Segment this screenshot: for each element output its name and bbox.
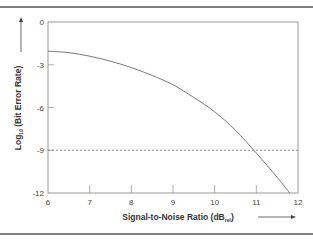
y-axis-title: Log10 (Bit Error Rate) — [13, 66, 24, 151]
x-tick-label: 9 — [171, 198, 176, 207]
y-tick-label: -12 — [32, 189, 44, 198]
y-tick-label: -3 — [37, 61, 45, 70]
x-axis-arrow-icon — [258, 215, 296, 219]
y-tick-label: -6 — [37, 104, 45, 113]
x-tick-label: 10 — [210, 198, 219, 207]
y-tick-label: 0 — [40, 18, 45, 27]
x-tick-label: 8 — [129, 198, 134, 207]
x-axis: 6789101112 — [46, 185, 303, 207]
y-tick-label: -9 — [37, 146, 45, 155]
x-tick-label: 7 — [87, 198, 92, 207]
ber-chart: 0-3-6-9-12 6789101112 Log10 (Bit Error R… — [0, 0, 313, 243]
x-tick-label: 11 — [252, 198, 261, 207]
y-axis-arrow-icon — [19, 17, 23, 52]
x-tick-label: 6 — [46, 198, 51, 207]
x-axis-title: Signal-to-Noise Ratio (dBrel) — [122, 212, 234, 223]
plot-area — [48, 22, 298, 193]
x-tick-label: 12 — [294, 198, 303, 207]
y-axis: 0-3-6-9-12 — [32, 18, 54, 198]
series-line-ber — [48, 51, 290, 193]
